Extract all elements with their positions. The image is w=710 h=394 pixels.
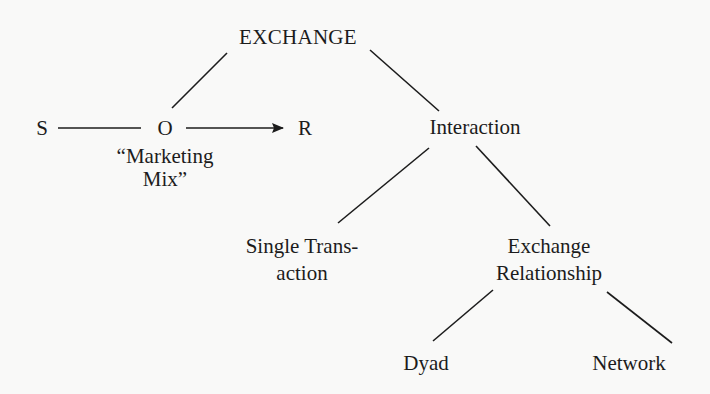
node-exchange-relationship-line2: Relationship — [496, 260, 602, 287]
label-marketing-mix-line2: Mix” — [143, 166, 187, 193]
node-r: R — [298, 115, 312, 142]
edge-relationship-network — [607, 292, 672, 343]
diagram-edges — [0, 0, 710, 394]
node-interaction: Interaction — [430, 114, 521, 141]
node-exchange: EXCHANGE — [239, 24, 357, 51]
edge-interaction-single-transaction — [338, 148, 429, 223]
node-exchange-relationship-line1: Exchange — [508, 233, 591, 260]
node-single-transaction-line2: action — [276, 260, 327, 287]
edge-exchange-interaction — [370, 50, 439, 111]
node-network: Network — [592, 350, 665, 377]
edge-interaction-exchange-relationship — [476, 146, 550, 226]
node-o: O — [157, 115, 172, 142]
diagram-canvas: EXCHANGE S O R “Marketing Mix” Interacti… — [0, 0, 710, 394]
edge-relationship-dyad — [433, 290, 493, 341]
edge-exchange-o — [172, 53, 227, 108]
node-single-transaction-line1: Single Trans- — [246, 233, 359, 260]
node-dyad: Dyad — [403, 350, 449, 377]
node-s: S — [36, 115, 48, 142]
